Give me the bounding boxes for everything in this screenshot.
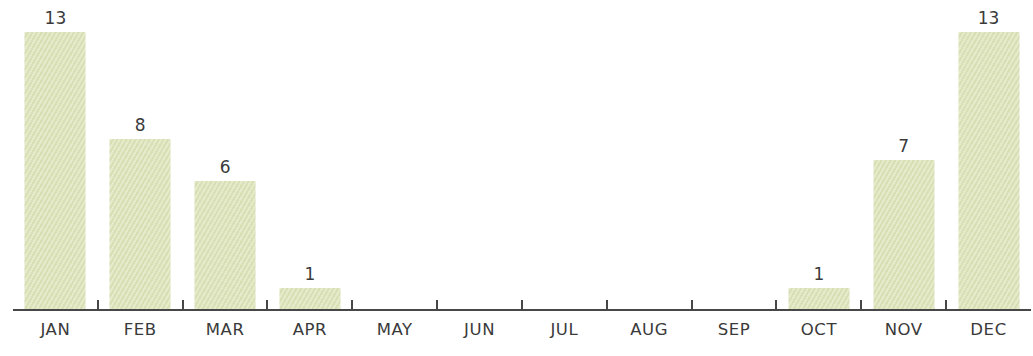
bar-value-label: 1: [813, 266, 824, 283]
x-axis-label: AUG: [607, 315, 692, 339]
x-axis-label: SEP: [692, 315, 777, 339]
month-slot: 1: [776, 0, 861, 309]
plot-area: 13 8 6 1: [13, 0, 1031, 311]
bar: 8: [110, 139, 171, 309]
month-slot: [522, 0, 607, 309]
bar: 7: [873, 160, 934, 309]
x-axis-labels: JAN FEB MAR APR MAY JUN JUL AUG SEP OCT …: [13, 315, 1031, 339]
x-axis-label: DEC: [946, 315, 1031, 339]
bar-value-label: 13: [978, 10, 1000, 27]
bar-value-label: 8: [135, 117, 146, 134]
month-slot: 13: [946, 0, 1031, 309]
bar: 13: [25, 32, 86, 309]
month-slot: 6: [183, 0, 268, 309]
month-slot: [437, 0, 522, 309]
bar-value-label: 6: [220, 159, 231, 176]
month-slot: [352, 0, 437, 309]
x-axis-label: FEB: [98, 315, 183, 339]
x-axis-label: OCT: [776, 315, 861, 339]
x-axis-label: MAR: [183, 315, 268, 339]
x-axis-label: JUL: [522, 315, 607, 339]
bar-value-label: 7: [898, 138, 909, 155]
month-slot: [692, 0, 777, 309]
bar: 13: [958, 32, 1019, 309]
month-slot: 7: [861, 0, 946, 309]
x-axis-label: APR: [267, 315, 352, 339]
bar: 1: [279, 288, 340, 309]
month-slot: [607, 0, 692, 309]
bar: 1: [788, 288, 849, 309]
x-axis-label: NOV: [861, 315, 946, 339]
month-slot: 8: [98, 0, 183, 309]
month-slot: 13: [13, 0, 98, 309]
monthly-bar-chart: 13 8 6 1: [0, 0, 1033, 356]
x-axis-label: JUN: [437, 315, 522, 339]
month-slot: 1: [267, 0, 352, 309]
bar-value-label: 13: [45, 10, 67, 27]
x-axis-label: MAY: [352, 315, 437, 339]
x-axis-label: JAN: [13, 315, 98, 339]
bar: 6: [195, 181, 256, 309]
bar-value-label: 1: [304, 266, 315, 283]
